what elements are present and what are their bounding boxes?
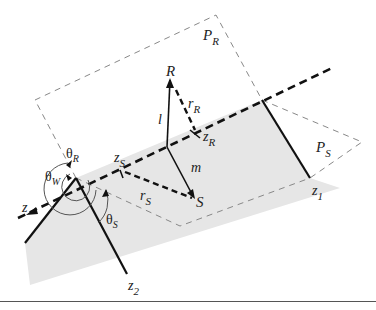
label-source: S (196, 194, 204, 210)
caption-divider (0, 301, 376, 302)
label-plane-R: PR (202, 27, 219, 47)
wedge-diagram: PR PS R S l m rR rS zR zS z z1 z2 θR θW … (0, 0, 376, 310)
label-receiver: R (165, 63, 175, 79)
R-arrowhead (166, 78, 174, 88)
label-z-axis: z (21, 200, 28, 215)
label-plane-S: PS (315, 139, 331, 159)
label-r-R: rR (188, 96, 200, 115)
line-l (167, 80, 170, 147)
z-axis-arrowhead (26, 207, 38, 215)
label-theta-R: θR (66, 146, 79, 164)
label-m: m (191, 160, 201, 175)
theta-R-arrowhead (66, 160, 72, 168)
label-theta-W: θW (45, 169, 62, 187)
label-z2: z2 (127, 278, 139, 297)
label-l: l (158, 112, 162, 127)
